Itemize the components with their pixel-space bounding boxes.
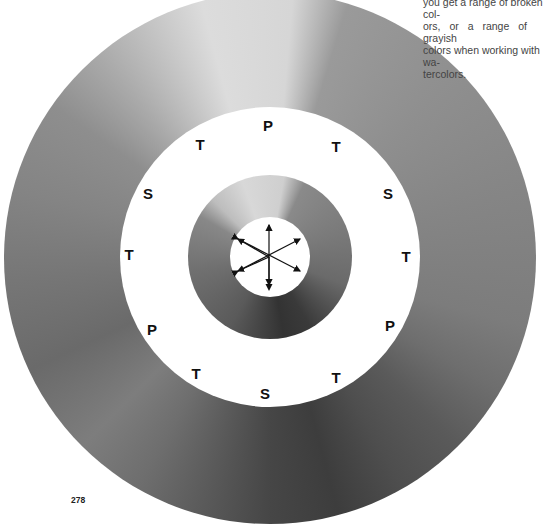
caption-text: you get a range of broken col- ors, or a… [423,0,544,80]
label-primary: P [385,317,395,334]
arrows-icon [230,217,310,297]
caption-line: you get a range of broken col- [423,0,544,20]
caption-line: tercolors. [423,68,544,80]
label-secondary: S [143,185,153,202]
label-primary: P [263,117,273,134]
caption-line: colors when working with wa- [423,44,544,68]
label-primary: P [147,321,157,338]
label-tertiary: T [191,365,200,382]
label-tertiary: T [401,248,410,265]
page-number: 278 [71,495,85,505]
label-secondary: S [260,385,270,402]
label-tertiary: T [331,369,340,386]
label-secondary: S [383,185,393,202]
label-tertiary: T [331,138,340,155]
label-tertiary: T [195,136,204,153]
caption-line: ors, or a range of grayish [423,20,544,44]
label-tertiary: T [124,246,133,263]
